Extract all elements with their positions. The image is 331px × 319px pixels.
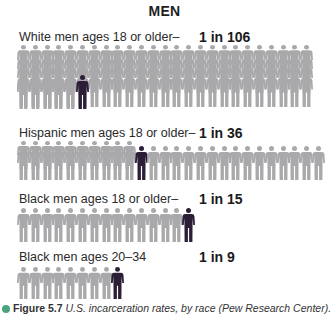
- group-label-black-20-34: Black men ages 20–34: [19, 250, 146, 264]
- caption-text: U.S. incarceration rates, by race (Pew R…: [63, 302, 331, 314]
- caption-bullet-icon: [2, 305, 10, 313]
- figure-caption: Figure 5.7 U.S. incarceration rates, by …: [2, 302, 331, 314]
- group-rate-white: 1 in 106: [199, 29, 250, 45]
- chart-title: MEN: [0, 3, 329, 19]
- group-rate-hispanic: 1 in 36: [199, 125, 243, 141]
- figure-number: Figure 5.7: [13, 302, 63, 314]
- person-highlighted-icon: [111, 267, 124, 299]
- group-rate-black-20-34: 1 in 9: [199, 249, 235, 265]
- person-highlighted-icon: [76, 75, 89, 109]
- group-rate-black-18: 1 in 15: [199, 191, 243, 207]
- person-highlighted-icon: [182, 208, 195, 242]
- group-label-white: White men ages 18 or older–: [19, 30, 180, 44]
- group-label-black-18: Black men ages 18 or older–: [19, 192, 178, 206]
- person-icon: [300, 72, 313, 107]
- group-label-hispanic: Hispanic men ages 18 or older–: [19, 126, 196, 140]
- person-icon: [312, 146, 325, 180]
